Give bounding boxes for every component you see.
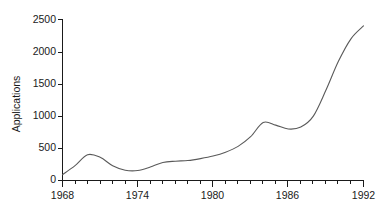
y-tick-label-2000: 2000 bbox=[33, 45, 57, 57]
y-tick-label-0: 0 bbox=[50, 173, 56, 185]
x-tick-label-1968: 1968 bbox=[51, 189, 75, 201]
y-tick-label-1000: 1000 bbox=[33, 109, 57, 121]
y-axis-ticks bbox=[58, 20, 63, 181]
x-tick-label-1992: 1992 bbox=[352, 189, 376, 201]
x-tick-label-1980: 1980 bbox=[201, 189, 225, 201]
y-tick-label-500: 500 bbox=[38, 141, 56, 153]
data-line-applications bbox=[63, 26, 364, 175]
y-axis-title: Applications bbox=[10, 76, 22, 133]
chart-figure: Applications 0 500 1000 1500 2000 2500 bbox=[0, 0, 385, 213]
y-tick-label-1500: 1500 bbox=[33, 77, 57, 89]
line-chart: Applications 0 500 1000 1500 2000 2500 bbox=[0, 0, 385, 213]
x-tick-label-1974: 1974 bbox=[126, 189, 150, 201]
x-tick-label-1986: 1986 bbox=[276, 189, 300, 201]
y-tick-label-2500: 2500 bbox=[33, 13, 57, 25]
x-axis-major-ticks bbox=[63, 181, 364, 187]
